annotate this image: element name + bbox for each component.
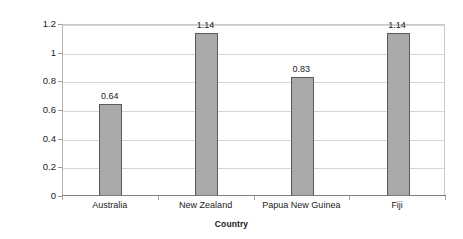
- y-axis-tick-label: 0: [26, 191, 56, 201]
- plot-area: [62, 24, 445, 196]
- x-axis-tick-mark: [254, 196, 255, 200]
- y-axis-tick-label: 0.6: [26, 105, 56, 115]
- x-axis-tick-mark: [445, 196, 446, 200]
- y-axis-tick-mark: [58, 81, 62, 82]
- x-axis-tick-label: Fiji: [337, 201, 457, 210]
- y-axis-tick-mark: [58, 167, 62, 168]
- bar-value-label: 1.14: [367, 21, 427, 30]
- y-axis-tick-label: 1.2: [26, 19, 56, 29]
- bar-value-label: 1.14: [176, 21, 236, 30]
- bar: [195, 33, 218, 196]
- y-axis-tick-mark: [58, 139, 62, 140]
- x-axis-tick-mark: [62, 196, 63, 200]
- bar: [291, 77, 314, 196]
- bar-chart: Sedimentation rates (%/year) 00.20.40.60…: [0, 0, 463, 239]
- y-axis-tick-mark: [58, 53, 62, 54]
- x-axis-title: Country: [0, 219, 463, 229]
- y-axis-tick-label: 0.8: [26, 77, 56, 87]
- y-axis-tick-label: 1: [26, 48, 56, 58]
- y-axis-tick-label: 0.4: [26, 134, 56, 144]
- bar-value-label: 0.64: [80, 92, 140, 101]
- y-axis-tick-mark: [58, 110, 62, 111]
- bar-value-label: 0.83: [271, 65, 331, 74]
- bar: [387, 33, 410, 196]
- y-axis-tick-label: 0.2: [26, 163, 56, 173]
- x-axis-tick-mark: [158, 196, 159, 200]
- y-axis-tick-mark: [58, 24, 62, 25]
- x-axis-tick-mark: [349, 196, 350, 200]
- bar: [99, 104, 122, 196]
